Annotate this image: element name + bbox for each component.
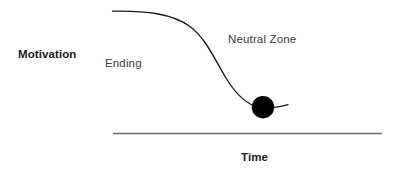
current-position-ball — [252, 96, 274, 118]
transition-curve-diagram: Motivation Ending Neutral Zone Time — [0, 0, 396, 170]
chart-canvas — [0, 0, 396, 170]
axis-label-y: Motivation — [18, 49, 77, 61]
axis-label-x: Time — [241, 152, 268, 164]
phase-label-ending: Ending — [105, 58, 142, 70]
phase-label-neutral-zone: Neutral Zone — [228, 34, 296, 46]
